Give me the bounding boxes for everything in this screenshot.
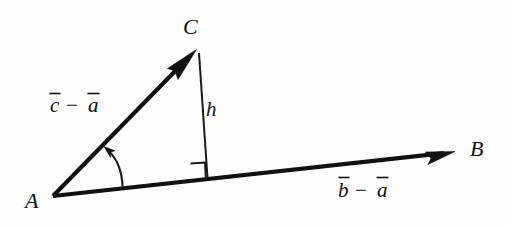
vector-ab-label-group: b − a [338, 178, 389, 203]
vector-ab-label-minus: − [355, 178, 367, 202]
vector-ac-label-a: a [88, 93, 99, 117]
vector-ac-label-c: c [50, 93, 60, 117]
vertex-label-c: C [183, 14, 198, 39]
vector-ab-label-b: b [338, 178, 349, 202]
vector-ac-label-minus: − [66, 93, 78, 117]
vertex-label-a: A [23, 188, 39, 213]
diagram-canvas: A B C h c − a b − a [0, 0, 511, 226]
altitude-label-h: h [206, 97, 217, 121]
vector-triangle-diagram: A B C h c − a b − a [0, 0, 511, 226]
vector-ab-label-a: a [377, 178, 388, 202]
vector-ac-label-group: c − a [50, 93, 100, 117]
vertex-label-b: B [470, 136, 483, 161]
